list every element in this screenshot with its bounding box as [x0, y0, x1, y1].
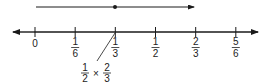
- tick-label-denominator: 6: [72, 48, 78, 59]
- tick-label-numerator: 1: [72, 36, 78, 47]
- annotation-left-denominator: 2: [82, 73, 88, 84]
- tick-label-numerator: 5: [233, 36, 239, 47]
- annotation-operator: ×: [93, 68, 99, 79]
- annotation-expression: 1 2 × 2 3: [81, 62, 111, 84]
- number-line-diagram: 01613122356 1 2 × 2 3: [0, 0, 271, 84]
- tick-label-numerator: 1: [153, 36, 159, 47]
- tick-label-numerator: 2: [193, 36, 199, 47]
- annotation-right-numerator: 2: [104, 62, 110, 73]
- top-segment-point: [113, 5, 117, 9]
- tick-label-denominator: 6: [233, 48, 239, 59]
- annotation-right-denominator: 3: [104, 73, 110, 84]
- tick-label: 0: [32, 38, 38, 49]
- tick-label-denominator: 3: [113, 48, 119, 59]
- tick-label-denominator: 2: [153, 48, 159, 59]
- tick-label-denominator: 3: [193, 48, 199, 59]
- annotation-left-numerator: 1: [82, 62, 88, 73]
- tick-label-numerator: 1: [113, 36, 119, 47]
